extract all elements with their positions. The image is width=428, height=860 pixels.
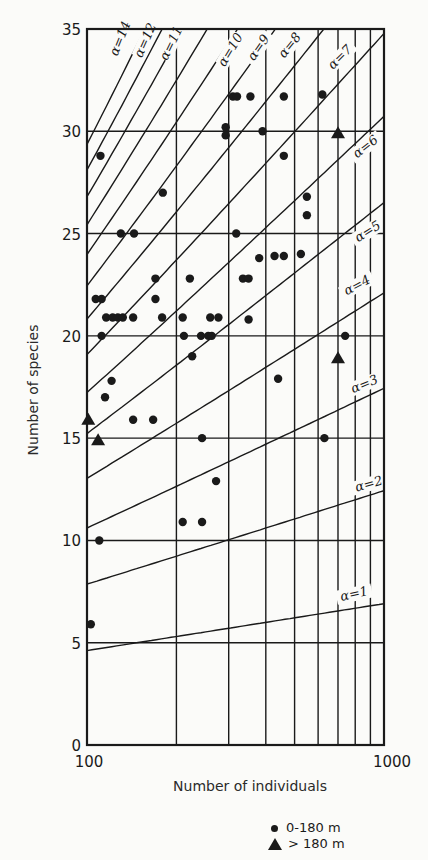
point-circle: [151, 295, 159, 303]
point-circle: [320, 434, 328, 442]
legend-label: > 180 m: [288, 836, 345, 852]
point-circle: [158, 313, 166, 321]
point-circle: [232, 229, 240, 237]
alpha-curve-3: [87, 388, 384, 528]
point-circle: [255, 254, 263, 262]
y-tick-label: 30: [62, 123, 81, 141]
point-circle: [246, 92, 254, 100]
triangle-marker-icon: [268, 838, 282, 850]
point-circle: [244, 274, 252, 282]
alpha-label-14: α=14: [106, 19, 133, 58]
point-circle: [97, 332, 105, 340]
point-circle: [341, 332, 349, 340]
point-circle: [129, 416, 137, 424]
point-circle: [280, 152, 288, 160]
point-circle: [178, 313, 186, 321]
point-circle: [87, 620, 95, 628]
y-tick-label: 10: [62, 532, 81, 550]
legend-label: 0-180 m: [286, 820, 341, 836]
point-circle: [197, 332, 205, 340]
point-circle: [208, 332, 216, 340]
point-triangle: [81, 413, 95, 425]
point-circle: [96, 152, 104, 160]
point-circle: [159, 188, 167, 196]
alpha-curve-2: [87, 491, 384, 584]
point-circle: [186, 274, 194, 282]
point-circle: [198, 434, 206, 442]
x-tick-label: 100: [75, 753, 104, 771]
alpha-curve-1: [87, 604, 384, 651]
point-circle: [151, 274, 159, 282]
point-circle: [274, 375, 282, 383]
point-triangle: [331, 351, 345, 363]
point-triangle: [91, 433, 105, 445]
y-tick-label: 20: [62, 328, 81, 346]
point-circle: [119, 313, 127, 321]
alpha-curve-6: [87, 116, 384, 392]
point-circle: [214, 313, 222, 321]
y-tick-label: 35: [62, 21, 81, 39]
legend: 0-180 m > 180 m: [268, 820, 345, 852]
point-circle: [180, 332, 188, 340]
point-circle: [221, 123, 229, 131]
x-axis-ticks: 1001000: [75, 753, 411, 771]
point-circle: [130, 229, 138, 237]
x-axis-title: Number of individuals: [173, 778, 327, 794]
legend-item-deep: > 180 m: [268, 836, 345, 852]
point-circle: [297, 250, 305, 258]
point-circle: [303, 211, 311, 219]
circle-marker-icon: [271, 825, 278, 832]
point-circle: [178, 518, 186, 526]
y-tick-label: 5: [71, 635, 81, 653]
y-axis-title: Number of species: [25, 325, 41, 456]
point-circle: [107, 377, 115, 385]
point-circle: [188, 352, 196, 360]
point-circle: [198, 518, 206, 526]
alpha-label-1: α=1: [339, 583, 369, 603]
point-circle: [270, 252, 278, 260]
point-circle: [244, 315, 252, 323]
y-tick-label: 25: [62, 226, 81, 244]
x-tick-label: 1000: [373, 753, 411, 771]
point-circle: [318, 90, 326, 98]
y-tick-label: 15: [62, 430, 81, 448]
point-circle: [280, 252, 288, 260]
point-circle: [258, 127, 266, 135]
point-circle: [206, 313, 214, 321]
alpha-curve-7: [87, 34, 384, 355]
point-circle: [149, 416, 157, 424]
alpha-curve-14: [87, 0, 384, 144]
y-axis-ticks: 05101520253035: [62, 21, 81, 755]
point-circle: [280, 92, 288, 100]
point-circle: [303, 193, 311, 201]
point-circle: [101, 393, 109, 401]
point-circle: [221, 131, 229, 139]
point-triangle: [331, 126, 345, 138]
alpha-label-12: α=12: [131, 21, 159, 60]
point-circle: [97, 295, 105, 303]
species-individuals-chart: α=1α=2α=3α=4α=5α=6α=7α=8α=9α=10α=11α=12α…: [0, 0, 428, 860]
legend-item-shallow: 0-180 m: [268, 820, 345, 836]
point-circle: [212, 477, 220, 485]
point-circle: [95, 536, 103, 544]
alpha-label-10: α=10: [214, 30, 246, 69]
point-circle: [117, 229, 125, 237]
point-circle: [233, 92, 241, 100]
point-circle: [129, 313, 137, 321]
